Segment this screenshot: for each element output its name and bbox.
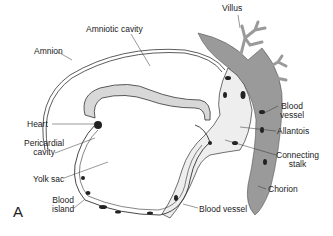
label-yolk-sac: Yolk sac [33, 175, 64, 184]
label-heart: Heart [27, 120, 48, 129]
label-chorion: Chorion [268, 185, 298, 194]
label-amnion: Amnion [34, 47, 63, 56]
heart-shape [94, 121, 102, 129]
panel-letter: A [13, 203, 23, 220]
label-connecting-stalk: Connecting stalk [276, 151, 319, 169]
embryo-body [84, 84, 210, 120]
label-connecting-stalk-line2: stalk [289, 159, 306, 169]
label-blood-vessel-lower: Blood vessel [199, 205, 247, 214]
label-amniotic-cavity: Amniotic cavity [86, 25, 143, 34]
label-pericardial-cavity: Pericardial cavity [24, 139, 64, 157]
label-pericardial-cavity-line2: cavity [33, 147, 55, 157]
label-villus: Villus [222, 4, 242, 13]
label-blood-vessel-upper-line2: vessel [280, 110, 304, 120]
label-blood-island: Blood island [52, 196, 74, 214]
label-blood-island-line2: island [52, 204, 74, 214]
label-blood-vessel-upper: Blood vessel [280, 102, 304, 120]
label-allantois: Allantois [277, 127, 309, 136]
